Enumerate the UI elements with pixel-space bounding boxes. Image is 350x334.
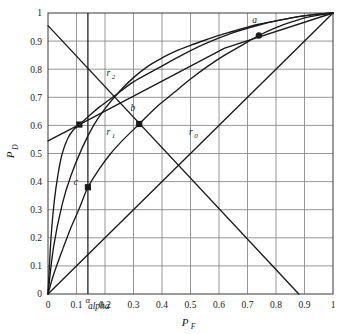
x-tick-label: 0.3 — [128, 300, 140, 310]
marker-point-c — [85, 184, 91, 190]
x-tick-label: 0.5 — [185, 300, 197, 310]
x-tick-label: 0.6 — [213, 300, 225, 310]
alpha-symbol-label: α — [86, 295, 91, 305]
curve-label-subscript-r1: 1 — [112, 132, 116, 140]
x-tick-label: 0.8 — [270, 300, 282, 310]
point-label-point-a: a — [252, 15, 257, 25]
x-tick-label: 1 — [331, 300, 336, 310]
x-axis-title: P — [181, 316, 189, 328]
y-tick-label: 0.5 — [30, 149, 42, 159]
roc-chart-svg: 00.10.20.30.40.50.60.70.80.91 00.10.20.3… — [0, 0, 350, 334]
x-tick-label: 0.9 — [299, 300, 311, 310]
curve-label-r0: r — [189, 127, 193, 137]
y-tick-label: 0.8 — [30, 65, 42, 75]
y-tick-label: 0 — [37, 289, 42, 299]
marker-point-a — [256, 32, 262, 38]
x-axis-title-subscript: F — [190, 322, 196, 331]
marker-point-intersection-left — [76, 121, 82, 127]
marker-point-b — [136, 121, 142, 127]
x-tick-label: 0.1 — [71, 300, 83, 310]
x-tick-label: 0 — [46, 300, 51, 310]
curve-label-subscript-r0: 0 — [194, 132, 198, 140]
roc-figure: 00.10.20.30.40.50.60.70.80.91 00.10.20.3… — [0, 0, 350, 334]
chart-background — [0, 0, 350, 334]
point-label-point-b: b — [131, 103, 136, 113]
x-tick-label: 0.7 — [242, 300, 254, 310]
y-tick-label: 0.7 — [30, 93, 42, 103]
y-tick-label: 0.3 — [30, 205, 42, 215]
y-axis-title-subscript: D — [11, 144, 20, 151]
y-tick-label: 0.4 — [30, 177, 42, 187]
y-tick-label: 0.6 — [30, 121, 42, 131]
y-tick-label: 0.1 — [30, 261, 42, 271]
y-tick-label: 0.2 — [30, 233, 42, 243]
y-tick-label: 1 — [37, 8, 42, 18]
y-tick-label: 0.9 — [30, 37, 42, 47]
curve-label-alpha-line: alpha — [88, 301, 110, 311]
y-axis-title: P — [4, 151, 16, 159]
curve-label-r2: r — [106, 68, 110, 78]
alpha-threshold-label: α — [86, 295, 91, 305]
curve-label-subscript-r2: 2 — [112, 73, 116, 81]
x-tick-label: 0.4 — [156, 300, 168, 310]
curve-label-r1: r — [106, 127, 110, 137]
